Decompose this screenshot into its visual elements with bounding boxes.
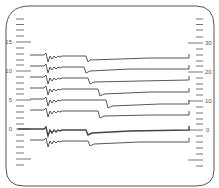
left-label-0: 0 <box>0 126 12 132</box>
left-label-10: 10 <box>0 68 12 74</box>
left-axis-ticks <box>16 19 31 165</box>
right-label-30: 30 <box>205 40 212 46</box>
left-label-15: 15 <box>0 39 12 45</box>
traces <box>18 53 189 147</box>
chart-frame <box>6 6 214 186</box>
right-label-20: 20 <box>205 69 212 75</box>
right-label-10: 10 <box>205 98 212 104</box>
trace-2 <box>30 64 189 73</box>
trace-8 <box>30 138 189 147</box>
trace-7 <box>18 126 189 136</box>
right-label-0: 0 <box>206 127 209 133</box>
right-axis-ticks <box>188 19 203 166</box>
trace-3 <box>30 75 189 84</box>
chart-stage: 15 10 5 0 30 20 10 0 <box>0 0 219 188</box>
trace-6 <box>30 108 189 118</box>
trace-1 <box>30 53 189 62</box>
chart-svg <box>0 0 219 188</box>
trace-4 <box>30 86 189 96</box>
left-label-5: 5 <box>0 97 12 103</box>
trace-5 <box>30 97 189 108</box>
